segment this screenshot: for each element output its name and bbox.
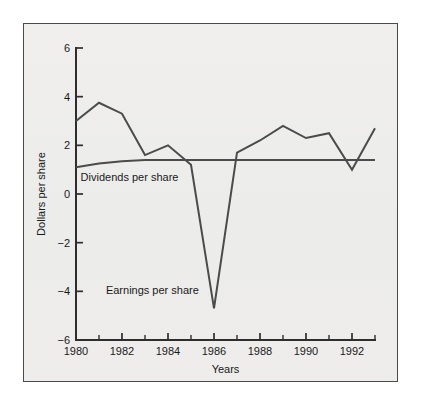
y-axis-tick-label: 4	[64, 91, 70, 103]
x-axis-tick-label: 1984	[156, 345, 180, 357]
line-chart: 6420−2−4−61980198219841986198819901992Ea…	[23, 23, 398, 382]
y-axis-tick-label: −2	[57, 237, 70, 249]
x-axis-tick-label: 1986	[202, 345, 226, 357]
figure-canvas: 6420−2−4−61980198219841986198819901992Ea…	[0, 0, 423, 401]
y-axis-tick-label: 6	[64, 42, 70, 54]
y-axis-title: Dollars per share	[35, 152, 47, 236]
y-axis-tick-label: 0	[64, 188, 70, 200]
series-line-dividends-per-share	[76, 160, 375, 167]
x-axis-tick-label: 1982	[110, 345, 134, 357]
x-axis-tick-label: 1990	[294, 345, 318, 357]
annotation-earnings-per-share: Earnings per share	[106, 284, 199, 296]
x-axis-title: Years	[212, 363, 240, 375]
x-axis-tick-label: 1980	[64, 345, 88, 357]
y-axis-tick-label: −4	[57, 285, 70, 297]
series-line-earnings-per-share	[76, 103, 375, 309]
annotation-dividends-per-share: Dividends per share	[81, 171, 179, 183]
x-axis-tick-label: 1992	[340, 345, 364, 357]
y-axis-tick-label: 2	[64, 139, 70, 151]
axes	[76, 48, 375, 340]
x-axis-tick-label: 1988	[248, 345, 272, 357]
chart-labels: 6420−2−4−61980198219841986198819901992Ea…	[35, 42, 364, 375]
series-lines	[76, 103, 375, 309]
